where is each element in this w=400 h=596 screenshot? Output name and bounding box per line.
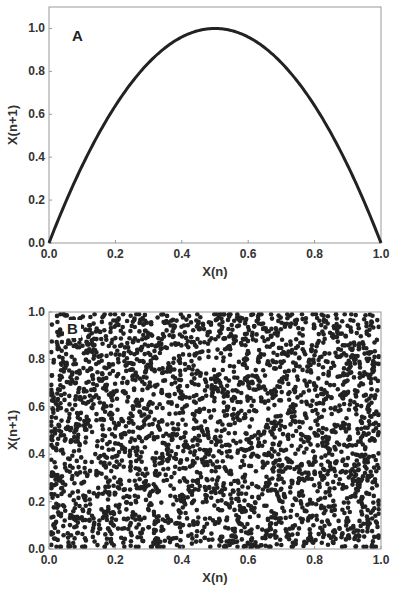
panel-b-chart: 0.00.20.40.60.81.00.00.20.40.60.81.0 B X… xyxy=(5,305,390,585)
y-tick-label: 0.0 xyxy=(28,542,45,556)
x-tick-label: 0.8 xyxy=(306,247,323,261)
x-tick-label: 1.0 xyxy=(373,553,390,567)
x-tick-label: 0.2 xyxy=(107,247,124,261)
panel-a-label: A xyxy=(72,27,83,44)
panel-b-scatter-points xyxy=(49,312,381,549)
panel-a-ylabel: X(n+1) xyxy=(5,105,20,145)
x-tick-label: 0.2 xyxy=(107,553,124,567)
y-tick-label: 0.0 xyxy=(28,236,45,250)
x-tick-label: 0.6 xyxy=(240,553,257,567)
x-tick-label: 0.4 xyxy=(173,247,190,261)
y-tick-label: 0.4 xyxy=(28,447,45,461)
panel-a-xlabel: X(n) xyxy=(202,264,227,279)
panel-b-label: B xyxy=(67,320,78,337)
figure: 0.00.20.40.60.81.00.00.20.40.60.81.0 A X… xyxy=(0,0,400,596)
panel-a-chart: 0.00.20.40.60.81.00.00.20.40.60.81.0 A X… xyxy=(5,7,390,279)
x-tick-label: 0.6 xyxy=(240,247,257,261)
y-tick-label: 0.2 xyxy=(28,495,45,509)
x-tick-label: 0.4 xyxy=(173,553,190,567)
panel-a-frame xyxy=(49,7,381,243)
y-tick-label: 1.0 xyxy=(28,305,45,319)
panel-a-curve xyxy=(49,28,381,243)
y-tick-label: 0.8 xyxy=(28,352,45,366)
y-tick-label: 0.6 xyxy=(28,107,45,121)
y-tick-label: 0.8 xyxy=(28,64,45,78)
panel-b-xlabel: X(n) xyxy=(202,570,227,585)
x-tick-label: 0.8 xyxy=(306,553,323,567)
x-tick-label: 1.0 xyxy=(373,247,390,261)
y-tick-label: 1.0 xyxy=(28,21,45,35)
y-tick-label: 0.2 xyxy=(28,193,45,207)
y-tick-label: 0.4 xyxy=(28,150,45,164)
y-tick-label: 0.6 xyxy=(28,400,45,414)
panel-b-ylabel: X(n+1) xyxy=(5,410,20,450)
